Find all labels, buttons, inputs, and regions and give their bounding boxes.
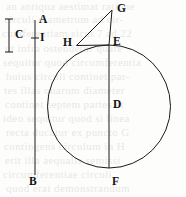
point-label-a: A (39, 14, 47, 26)
point-label-g: G (117, 3, 126, 15)
tangent-segment-gh (77, 10, 113, 46)
figure-drawing (0, 0, 186, 197)
point-label-b: B (29, 176, 37, 188)
segment-ge (109, 10, 112, 45)
chord-segment-he (77, 45, 110, 46)
point-label-i: I (40, 32, 44, 44)
point-label-d: D (113, 99, 121, 111)
point-label-e: E (113, 36, 121, 48)
geometric-figure: an antiqua aestimat ratione circuli diam… (0, 0, 186, 197)
point-label-c: C (15, 29, 23, 41)
point-label-f: F (112, 176, 119, 188)
point-label-h: H (63, 37, 72, 49)
